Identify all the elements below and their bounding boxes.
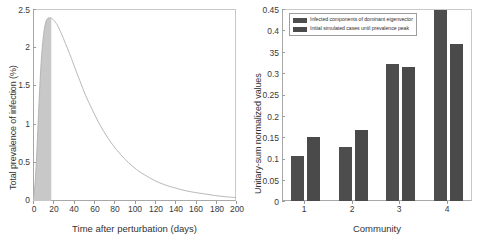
right-ytick-0p3: 0.3 [251,70,279,79]
right-ytick-0p05: 0.05 [251,177,279,186]
left-ytick-2p5: 2.5 [5,6,30,15]
right-ytick-0p4: 0.4 [251,27,279,36]
right-xtick-2: 2 [345,205,359,214]
bar-community-4-eigenvector [434,10,447,201]
right-ytick-0p2: 0.2 [251,113,279,122]
left-xtick-40: 40 [66,205,82,214]
left-ytick-1p5: 1.5 [5,81,30,90]
legend-swatch-simulated-cases [293,27,307,32]
right-xtick-3: 3 [392,205,406,214]
right-ytick-0p45: 0.45 [251,6,279,15]
legend-item-0: Infected components of dominant eigenvec… [293,16,413,24]
left-x-axis-label: Time after perturbation (days) [33,223,236,234]
right-ytick-0p1: 0.1 [251,155,279,164]
left-xtick-80: 80 [107,205,123,214]
panel-community-bars: Unitary-sum normalized values Community … [241,0,482,240]
right-ytick-0p15: 0.15 [251,134,279,143]
right-ytick-0p35: 35 [251,49,279,58]
legend-label-simulated-cases: Initial simulated cases until prevalence… [310,26,409,31]
prevalence-curve-group [33,9,236,201]
legend-swatch-eigenvector [293,18,307,23]
bar-community-3-eigenvector [386,64,399,201]
left-xtick-120: 120 [148,205,164,214]
bar-community-3-simulated-cases [402,67,415,201]
bar-community-2-simulated-cases [355,130,368,201]
left-xtick-160: 160 [188,205,204,214]
left-xtick-100: 100 [127,205,143,214]
left-xtick-140: 140 [168,205,184,214]
bar-community-4-simulated-cases [450,44,463,201]
legend-item-1: Initial simulated cases until prevalence… [293,25,413,33]
right-xtick-4: 4 [440,205,454,214]
panel-prevalence-timeseries: Total prevalence of infection (%) Time a… [0,0,241,240]
right-x-axis-label: Community [282,223,472,234]
legend: Infected components of dominant eigenvec… [289,13,417,36]
right-xtick-1: 1 [297,205,311,214]
bar-community-2-eigenvector [339,147,352,201]
figure-two-panel: Total prevalence of infection (%) Time a… [0,0,482,240]
left-xtick-180: 180 [209,205,225,214]
right-ytick-0p25: 0.25 [251,91,279,100]
right-ytick-0: 0 [251,198,279,207]
bars-container [282,9,472,201]
legend-label-eigenvector: Infected components of dominant eigenvec… [310,17,413,22]
left-ytick-0: 0 [5,196,30,205]
bar-community-1-eigenvector [291,156,304,201]
left-xtick-60: 60 [87,205,103,214]
left-ytick-2: 2 [5,43,30,52]
left-xtick-20: 20 [46,205,62,214]
left-ytick-0p5: 0.5 [5,158,30,167]
bar-community-1-simulated-cases [307,137,320,201]
prevalence-curve-line [33,18,236,200]
left-ytick-1: 1 [5,120,30,129]
left-xtick-0: 0 [26,205,42,214]
